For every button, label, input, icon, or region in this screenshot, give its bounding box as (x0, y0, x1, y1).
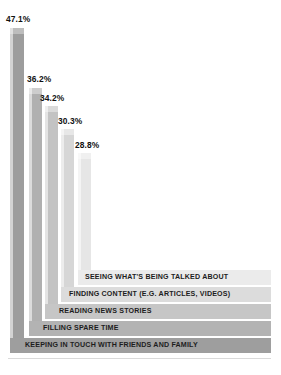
band-label-seeing-whats-talked-about: SEEING WHAT'S BEING TALKED ABOUT (85, 274, 228, 281)
band-filling-spare-time: FILLING SPARE TIME (29, 321, 271, 336)
band-label-filling-spare-time: FILLING SPARE TIME (43, 325, 119, 332)
value-label-reading-news-stories: 34.2% (40, 94, 64, 102)
value-label-finding-content: 30.3% (58, 117, 82, 125)
value-label-seeing-whats-talked-about: 28.8% (75, 141, 99, 149)
bar-vertical-finding-content (61, 129, 74, 302)
bar-vertical-seeing-whats-talked-about (78, 153, 91, 285)
bar-vertical-keeping-in-touch (10, 28, 24, 353)
bar-bevel-finding-content (61, 129, 64, 302)
band-reading-news-stories: READING NEWS STORIES (45, 304, 271, 319)
bar-bevel-seeing-whats-talked-about (78, 153, 81, 285)
band-keeping-in-touch: KEEPING IN TOUCH WITH FRIENDS AND FAMILY (10, 338, 271, 353)
band-label-keeping-in-touch: KEEPING IN TOUCH WITH FRIENDS AND FAMILY (25, 342, 198, 349)
bar-bevel-reading-news-stories (45, 106, 48, 319)
value-label-filling-spare-time: 36.2% (27, 75, 51, 83)
bar-vertical-reading-news-stories (45, 106, 58, 319)
bar-bevel-filling-spare-time (29, 88, 32, 336)
bar-bevel-keeping-in-touch (10, 28, 13, 353)
staircase-bar-chart: 47.1% KEEPING IN TOUCH WITH FRIENDS AND … (0, 0, 281, 375)
bar-vertical-filling-spare-time (29, 88, 42, 336)
band-finding-content: FINDING CONTENT (E.G. ARTICLES, VIDEOS) (61, 287, 271, 302)
band-seeing-whats-talked-about: SEEING WHAT'S BEING TALKED ABOUT (78, 270, 271, 285)
band-label-reading-news-stories: READING NEWS STORIES (59, 308, 152, 315)
value-label-keeping-in-touch: 47.1% (6, 15, 30, 23)
band-label-finding-content: FINDING CONTENT (E.G. ARTICLES, VIDEOS) (69, 291, 230, 298)
baseline-divider (8, 358, 271, 359)
